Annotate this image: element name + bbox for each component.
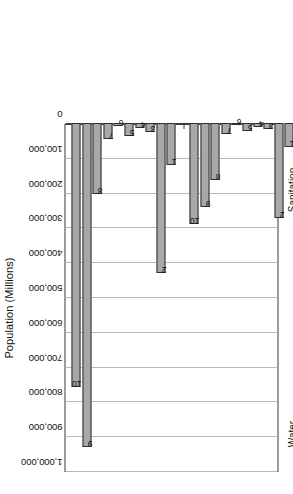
bar [200,123,209,207]
bar-value-key: 3 [268,121,273,131]
tick-label: 600,000 [28,318,62,329]
bar-value-key: 2 [279,210,284,220]
bar-value-key: 10 [190,216,199,226]
gridline [65,471,277,472]
bar [156,123,165,273]
tick-label: 900,000 [28,422,62,433]
bar-value-key: 1 [172,157,177,167]
bar-value-key: 8 [215,172,220,182]
bar-value-key: 4 [140,120,145,130]
tick-label: 300,000 [28,213,62,224]
axis-tick-labels: 1,000,000900,000800,000700,000600,000500… [18,124,62,476]
tick-label: 1,000,000 [21,457,62,468]
bar-value-key: 5 [129,128,134,138]
bar-value-key: 7 [226,126,231,136]
gridline [65,367,277,368]
gridline [65,227,277,228]
bar [274,123,283,218]
bar [82,123,91,447]
bar-value-key: 10 [72,379,81,389]
chart-figure: Population (Millions) 1,000,000900,00080… [0,0,293,494]
gridline [65,436,277,437]
bar-value-key: 9 [87,439,92,449]
gridline [65,262,277,263]
bar-value-key: 9 [205,199,210,209]
bar [71,123,80,387]
axis-title: Population (Millions) [0,128,16,488]
tick-label: 0 [57,109,62,120]
bar-value-key: 3 [150,124,155,134]
tick-label: 700,000 [28,353,62,364]
gridline [65,401,277,402]
bar-value-key: 6 [119,118,124,128]
bar [92,123,101,194]
gridline [65,297,277,298]
bar-value-key: 5 [247,123,252,133]
tick-label: 400,000 [28,248,62,259]
gridline [65,332,277,333]
legend-water-title: Water [286,380,293,488]
bar-value-key: 6 [237,117,242,127]
bar-value-key: 8 [97,186,102,196]
bar-value-key: 4 [258,119,263,129]
tick-label: 200,000 [28,179,62,190]
group-separator [183,123,184,129]
bar-value-key: 7 [108,131,113,141]
legend-sanitation-title: Sanitation [286,136,293,244]
bar [189,123,198,224]
bar-value-key: 2 [161,265,166,275]
legend-water: Water 1Latin America & Caribbean3Norther… [286,380,293,488]
tick-label: 500,000 [28,283,62,294]
plot-area: 1098765432110987654321 [64,124,278,472]
tick-label: 100,000 [28,144,62,155]
tick-label: 800,000 [28,387,62,398]
legend-sanitation: Sanitation 2Sub-Saharan Africa4Developed… [286,136,293,244]
